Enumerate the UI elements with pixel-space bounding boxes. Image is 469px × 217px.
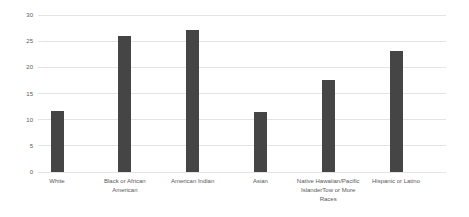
plot-area bbox=[38, 15, 446, 172]
bar-black-or-african-american bbox=[118, 36, 131, 172]
x-axis-category-label-line: American Indian bbox=[155, 177, 231, 186]
gridline bbox=[38, 41, 446, 42]
y-axis-tick-label: 15 bbox=[3, 90, 33, 98]
x-axis-category-label-line: IslanderTow or More bbox=[290, 186, 366, 195]
x-axis-category-label-line: Races bbox=[290, 195, 366, 204]
x-axis-category-label-line: Black or African bbox=[87, 177, 163, 186]
x-axis-category-label: American Indian bbox=[155, 177, 231, 186]
x-axis-category-label-line: Asian bbox=[222, 177, 298, 186]
y-axis-tick-label: 20 bbox=[3, 63, 33, 71]
gridline bbox=[38, 93, 446, 94]
bar-hispanic-or-latino bbox=[390, 51, 403, 172]
y-axis-tick-label: 25 bbox=[3, 37, 33, 45]
y-axis-tick-label: 10 bbox=[3, 116, 33, 124]
bar-white bbox=[51, 111, 64, 172]
gridline bbox=[38, 15, 446, 16]
y-axis-tick-label: 5 bbox=[3, 142, 33, 150]
bar-american-indian bbox=[186, 30, 199, 172]
x-axis-category-label-line: White bbox=[19, 177, 95, 186]
gridline bbox=[38, 172, 446, 173]
x-axis-category-label: Hispanic or Latino bbox=[358, 177, 434, 186]
x-axis-category-label-line: Hispanic or Latino bbox=[358, 177, 434, 186]
y-axis-tick-label: 0 bbox=[3, 168, 33, 176]
x-axis-category-label: Native Hawaiian/PacificIslanderTow or Mo… bbox=[290, 177, 366, 204]
gridline bbox=[38, 145, 446, 146]
x-axis-category-label-line: Native Hawaiian/Pacific bbox=[290, 177, 366, 186]
y-axis-tick-label: 30 bbox=[3, 11, 33, 19]
x-axis-category-label: Asian bbox=[222, 177, 298, 186]
bar-native-hawaiian-pacific-islandertow-or-more-races bbox=[322, 80, 335, 172]
bar-chart: 051015202530 WhiteBlack or AfricanAmeric… bbox=[0, 0, 469, 217]
bar-asian bbox=[254, 112, 267, 172]
gridline bbox=[38, 119, 446, 120]
x-axis-category-label: White bbox=[19, 177, 95, 186]
x-axis-category-label-line: American bbox=[87, 186, 163, 195]
x-axis-category-label: Black or AfricanAmerican bbox=[87, 177, 163, 195]
gridline bbox=[38, 67, 446, 68]
